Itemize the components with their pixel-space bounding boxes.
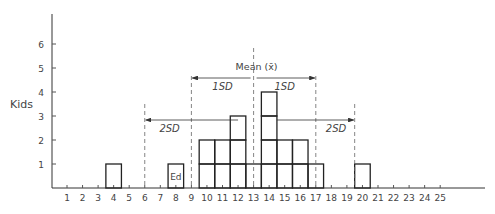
y-tick-label: 6: [38, 40, 44, 50]
histogram-box: [199, 140, 215, 164]
histogram-box: [355, 164, 371, 188]
x-tick-label: 9: [189, 193, 195, 203]
x-tick-label: 14: [263, 193, 275, 203]
bar-label: Ed: [170, 172, 181, 182]
histogram-chart: 1234561234567891011121314151617181920212…: [0, 0, 495, 214]
y-tick-label: 3: [38, 112, 44, 122]
sd1-right-label: 1SD: [274, 81, 295, 92]
histogram-box: [277, 164, 293, 188]
sd2-right-label: 2SD: [326, 123, 347, 134]
histogram-box: [261, 92, 277, 116]
x-tick-label: 13: [248, 193, 259, 203]
histogram-box: [277, 140, 293, 164]
bars: Ed: [106, 92, 370, 188]
x-tick-label: 18: [326, 193, 338, 203]
x-tick-label: 8: [173, 193, 179, 203]
x-tick-label: 12: [232, 193, 243, 203]
x-tick-label: 21: [372, 193, 383, 203]
y-axis-label: Kids: [10, 98, 33, 111]
sd2-left-label: 2SD: [159, 123, 180, 134]
x-tick-label: 6: [142, 193, 148, 203]
x-tick-label: 17: [310, 193, 321, 203]
histogram-box: [230, 140, 246, 164]
x-tick-label: 11: [217, 193, 228, 203]
x-tick-label: 22: [388, 193, 399, 203]
x-tick-label: 4: [111, 193, 117, 203]
x-tick-label: 3: [95, 193, 101, 203]
x-tick-label: 20: [357, 193, 369, 203]
histogram-box: [215, 140, 231, 164]
sd1-left-label: 1SD: [212, 81, 233, 92]
y-tick-label: 5: [38, 64, 44, 74]
histogram-box: [292, 164, 308, 188]
x-tick-label: 1: [64, 193, 70, 203]
histogram-box: [106, 164, 122, 188]
x-tick-label: 19: [341, 193, 353, 203]
mean-label: Mean (x̄): [236, 61, 278, 72]
x-tick-label: 16: [295, 193, 307, 203]
x-tick-label: 24: [419, 193, 431, 203]
histogram-box: [199, 164, 215, 188]
x-tick-label: 2: [80, 193, 86, 203]
histogram-box: [261, 116, 277, 140]
x-tick-label: 10: [201, 193, 213, 203]
x-tick-label: 25: [434, 193, 445, 203]
histogram-box: [230, 164, 246, 188]
y-tick-label: 4: [38, 88, 44, 98]
x-tick-label: 5: [126, 193, 132, 203]
y-tick-label: 2: [38, 136, 44, 146]
x-tick-label: 15: [279, 193, 290, 203]
histogram-box: [261, 164, 277, 188]
y-tick-label: 1: [38, 160, 44, 170]
histogram-box: [261, 140, 277, 164]
x-tick-label: 7: [157, 193, 163, 203]
histogram-box: [215, 164, 231, 188]
histogram-box: [292, 140, 308, 164]
x-tick-label: 23: [403, 193, 414, 203]
